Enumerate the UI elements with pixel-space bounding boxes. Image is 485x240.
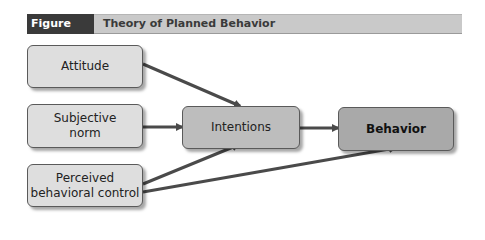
node-subjective-norm-line2: norm	[54, 126, 117, 141]
arrow-attitude-to-intentions	[143, 64, 240, 106]
node-behavior: Behavior	[338, 107, 454, 151]
node-intentions-label: Intentions	[211, 120, 271, 135]
node-attitude: Attitude	[27, 45, 143, 88]
node-pbc-line1: Perceived	[31, 171, 140, 186]
node-subjective-norm-line1: Subjective	[54, 111, 117, 126]
node-subjective-norm: Subjective norm	[27, 104, 143, 148]
node-attitude-label: Attitude	[61, 59, 109, 74]
node-behavior-label: Behavior	[366, 122, 426, 137]
node-perceived-behavioral-control: Perceived behavioral control	[27, 164, 143, 207]
node-intentions: Intentions	[182, 106, 300, 149]
node-pbc-line2: behavioral control	[31, 186, 140, 201]
